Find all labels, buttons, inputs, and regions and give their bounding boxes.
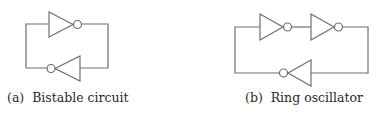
feedback-wire-a-right [80,24,108,68]
inverter-icon [280,60,312,86]
caption-ring-oscillator: (b) Ring oscillator [245,90,363,105]
inverter-icon [49,12,82,37]
feedback-wire-a [26,24,49,68]
inverter-icon [311,14,343,40]
inverter-icon [47,56,80,81]
caption-bistable-circuit: (a) Bistable circuit [7,90,129,105]
bistable-circuit-diagram [26,12,108,81]
feedback-wire-b-left [235,27,279,73]
inverter-icon [260,14,292,40]
ring-oscillator-diagram [235,14,368,86]
